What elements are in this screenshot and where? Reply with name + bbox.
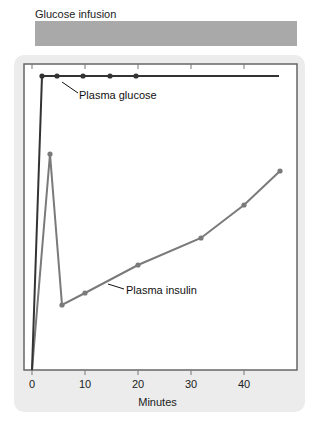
x-tick-10: 10 xyxy=(79,378,91,390)
chart-plot xyxy=(0,0,315,422)
plasma-insulin-label: Plasma insulin xyxy=(126,284,197,296)
x-tick-40: 40 xyxy=(238,378,250,390)
x-tick-0: 0 xyxy=(29,378,35,390)
x-tick-30: 30 xyxy=(185,378,197,390)
plasma-glucose-label: Plasma glucose xyxy=(79,89,157,101)
x-axis-label: Minutes xyxy=(0,396,315,408)
x-tick-20: 20 xyxy=(132,378,144,390)
plot-area xyxy=(24,64,297,370)
